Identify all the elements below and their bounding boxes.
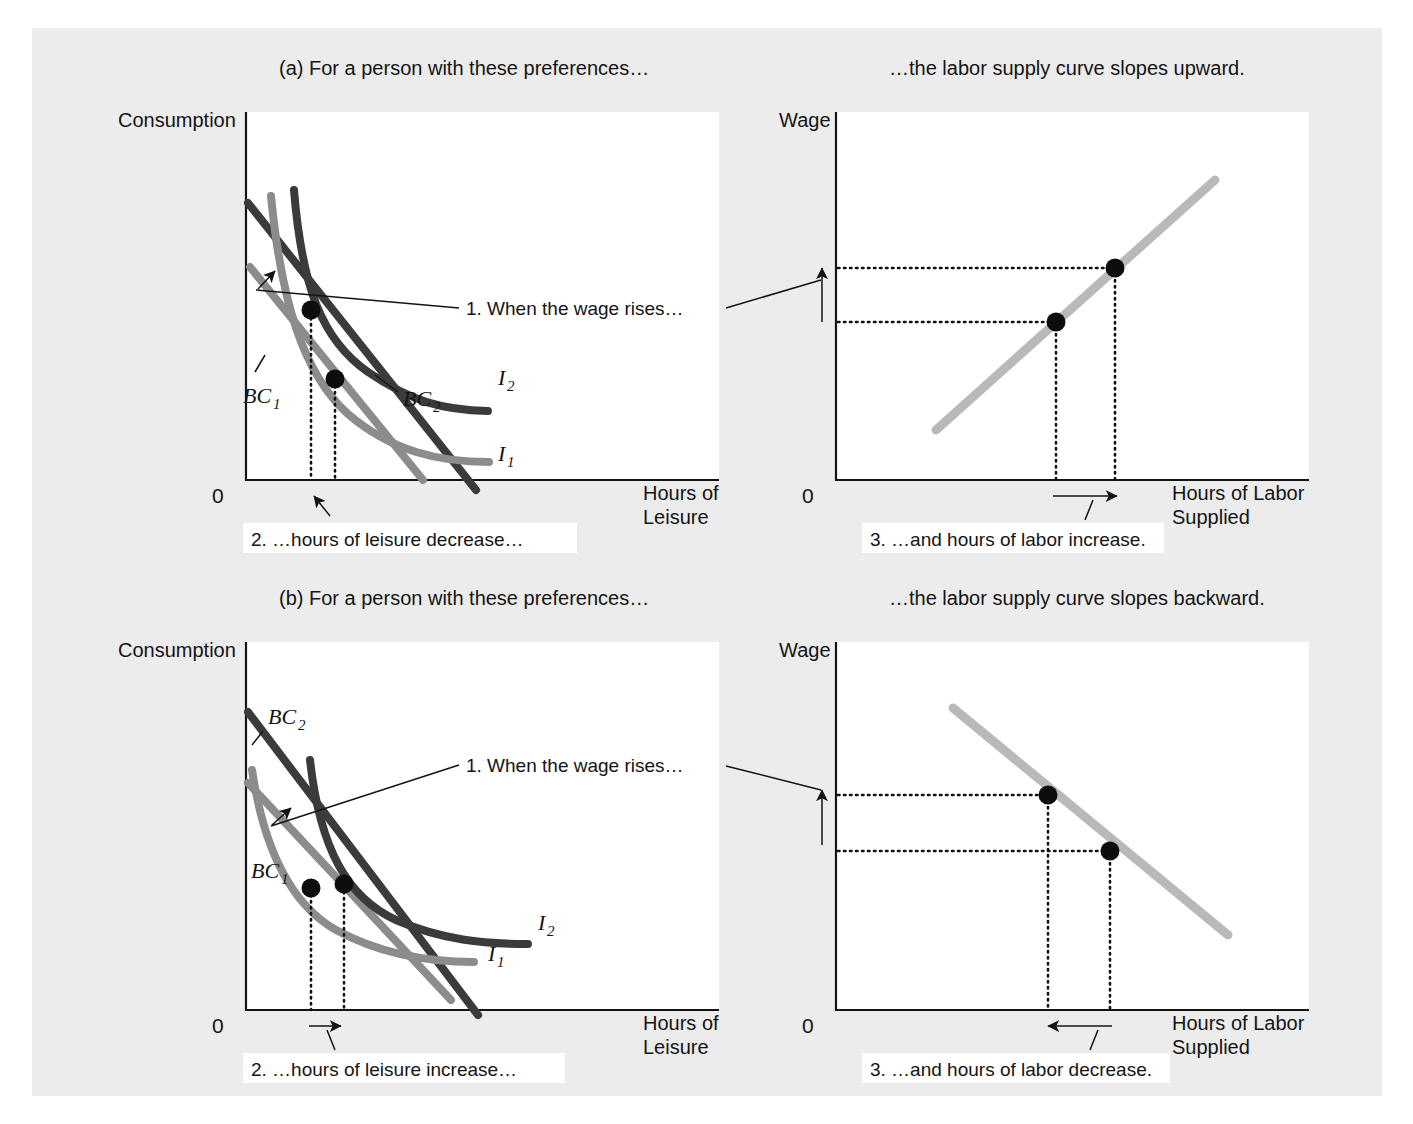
panel-b-left-y-axis-label: Consumption xyxy=(118,639,236,661)
panel-a-left-x-axis-label-1: Hours of xyxy=(643,482,719,504)
panel-a-right-x-axis-label-2: Supplied xyxy=(1172,506,1250,528)
panel-b-step1-text: 1. When the wage rises… xyxy=(466,755,684,776)
panel-b-step3-leader xyxy=(1090,1030,1098,1050)
panel-b-step2-leader xyxy=(327,1030,335,1050)
panel-b-optimum-point-1 xyxy=(302,879,321,898)
panel-a-i1-label-sub: 1 xyxy=(507,454,515,470)
panel-a-right-plot-area xyxy=(836,112,1309,480)
panel-b-step2-text: 2. …hours of leisure increase… xyxy=(251,1059,517,1080)
panel-b-i2-label-sub: 2 xyxy=(547,923,555,939)
panel-b-right-plot-area xyxy=(836,642,1309,1010)
figure-stage: (a) For a person with these preferences…… xyxy=(0,0,1413,1124)
panel-b-bc2-label: BC xyxy=(268,704,296,729)
panel-b-left-x-axis-label-1: Hours of xyxy=(643,1012,719,1034)
panel-a-bc1-label-sub: 1 xyxy=(273,396,281,412)
panel-a-right-origin-label: 0 xyxy=(802,484,814,507)
panel-a-supply-point-2 xyxy=(1106,259,1125,278)
panel-a-left-y-axis-label: Consumption xyxy=(118,109,236,131)
panel-b-right-x-axis-label-2: Supplied xyxy=(1172,1036,1250,1058)
panel-b-bc1-label-sub: 1 xyxy=(281,871,289,887)
panel-a-bc2-label-sub: 2 xyxy=(433,399,441,415)
panel-a-right-y-axis-label: Wage xyxy=(779,109,831,131)
panel-a-optimum-point-1 xyxy=(302,301,321,320)
panel-a-step3-leader xyxy=(1085,500,1093,520)
panel-a-step3-text: 3. …and hours of labor increase. xyxy=(870,529,1146,550)
panel-b-bc1-label: BC xyxy=(251,858,279,883)
panel-b-left-title: (b) For a person with these preferences… xyxy=(279,587,649,609)
panel-b-supply-point-1 xyxy=(1101,842,1120,861)
panel-a-i2-label-sub: 2 xyxy=(507,378,515,394)
panel-b-step1-leader-right xyxy=(726,766,821,790)
panel-b-step3-text: 3. …and hours of labor decrease. xyxy=(870,1059,1152,1080)
panel-b-right-y-axis-label: Wage xyxy=(779,639,831,661)
panel-b-left-x-axis-label-2: Leisure xyxy=(643,1036,709,1058)
panel-b-optimum-point-2 xyxy=(335,875,354,894)
panel-a-step1-text: 1. When the wage rises… xyxy=(466,298,684,319)
panel-a-step2-text: 2. …hours of leisure decrease… xyxy=(251,529,523,550)
figure-svg: (a) For a person with these preferences…… xyxy=(0,0,1413,1124)
panel-a-step2-arrow xyxy=(314,496,330,516)
panel-a-step1-leader-right xyxy=(726,280,821,308)
panel-a-supply-point-1 xyxy=(1047,313,1066,332)
panel-a-left-title: (a) For a person with these preferences… xyxy=(279,57,649,79)
panel-a-left-origin-label: 0 xyxy=(212,484,224,507)
panel-a-right-title: …the labor supply curve slopes upward. xyxy=(889,57,1245,79)
panel-b-supply-point-2 xyxy=(1039,786,1058,805)
panel-a-right-x-axis-label-1: Hours of Labor xyxy=(1172,482,1305,504)
panel-b-bc2-label-sub: 2 xyxy=(298,717,306,733)
panel-a-left-x-axis-label-2: Leisure xyxy=(643,506,709,528)
panel-a-bc1-label: BC xyxy=(243,383,271,408)
panel-a-optimum-point-2 xyxy=(326,370,345,389)
panel-b-right-origin-label: 0 xyxy=(802,1014,814,1037)
panel-b-right-title: …the labor supply curve slopes backward. xyxy=(889,587,1265,609)
panel-a-bc2-label: BC xyxy=(403,386,431,411)
panel-b-left-plot-area xyxy=(246,642,719,1010)
panel-b-right-x-axis-label-1: Hours of Labor xyxy=(1172,1012,1305,1034)
panel-b-i1-label-sub: 1 xyxy=(497,954,505,970)
panel-b-left-origin-label: 0 xyxy=(212,1014,224,1037)
